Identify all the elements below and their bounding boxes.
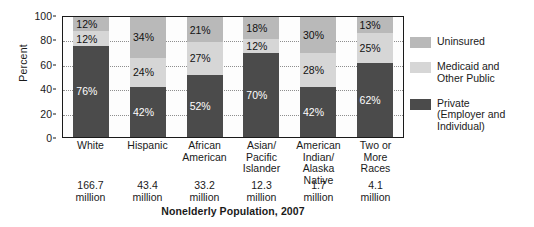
bar-segment-value-label: 70%	[246, 90, 267, 101]
bar-segment-value-label: 21%	[190, 24, 211, 35]
bar-segment[interactable]: 42%	[130, 87, 166, 137]
bar-segment[interactable]: 30%	[300, 17, 336, 53]
bar-segment-value-label: 28%	[303, 65, 324, 76]
bar-segment[interactable]: 13%	[357, 17, 393, 33]
legend-label: Private (Employer and Individual)	[437, 98, 505, 133]
bar[interactable]: 30%28%42%	[300, 17, 336, 137]
bar-segment[interactable]: 21%	[187, 17, 223, 42]
bar-segment[interactable]: 28%	[300, 53, 336, 87]
bar[interactable]: 12%12%76%	[73, 17, 109, 137]
y-tick-mark	[53, 138, 56, 139]
legend-swatch	[410, 37, 431, 48]
x-category-population-label: 4.1 million	[347, 180, 404, 203]
y-tick-label: 80	[40, 35, 52, 46]
bar-segment-value-label: 12%	[76, 19, 97, 30]
bar[interactable]: 18%12%70%	[243, 17, 279, 137]
legend-swatch	[410, 62, 431, 73]
y-tick-label: 20	[40, 108, 52, 119]
x-category-population-label: 43.4 million	[119, 180, 176, 203]
bar-segment-value-label: 52%	[190, 101, 211, 112]
bar-segment-value-label: 27%	[190, 53, 211, 64]
bar-segment-value-label: 18%	[246, 23, 267, 34]
x-axis-title: Nonelderly Population, 2007	[62, 205, 404, 217]
x-category-label: African American	[176, 140, 233, 163]
y-tick-label: 40	[40, 84, 52, 95]
bar-segment[interactable]: 52%	[187, 75, 223, 137]
bar[interactable]: 13%25%62%	[357, 17, 393, 137]
legend-swatch	[410, 99, 431, 110]
bar-segment[interactable]: 12%	[73, 17, 109, 31]
y-tick-mark	[53, 113, 56, 114]
bar-segment[interactable]: 24%	[130, 58, 166, 87]
x-category-label: Asian/ Pacific Islander	[233, 140, 290, 175]
bar-group: 12%12%76%34%24%42%21%27%52%18%12%70%30%2…	[63, 17, 403, 137]
bar-segment[interactable]: 18%	[243, 17, 279, 39]
bar-segment-value-label: 30%	[303, 30, 324, 41]
bar-segment-value-label: 25%	[360, 42, 381, 53]
bar-segment-value-label: 42%	[133, 107, 154, 118]
x-category-label: White	[62, 140, 119, 152]
bar-segment[interactable]: 12%	[243, 39, 279, 53]
x-category-population-label: 33.2 million	[176, 180, 233, 203]
legend-item[interactable]: Uninsured	[410, 36, 534, 48]
legend-label: Uninsured	[437, 36, 485, 48]
x-category-label: Two or More Races	[347, 140, 404, 175]
y-tick-mark	[53, 40, 56, 41]
y-tick-label: 100	[34, 11, 52, 22]
bar-segment-value-label: 24%	[133, 67, 154, 78]
bar-segment[interactable]: 25%	[357, 33, 393, 63]
bar-segment-value-label: 12%	[76, 33, 97, 44]
bar-segment-value-label: 76%	[76, 86, 97, 97]
legend: UninsuredMedicaid and Other PublicPrivat…	[410, 36, 534, 146]
legend-item[interactable]: Private (Employer and Individual)	[410, 98, 534, 133]
x-category-population-label: 166.7 million	[62, 180, 119, 203]
bar-segment[interactable]: 70%	[243, 53, 279, 137]
y-tick-mark	[53, 89, 56, 90]
y-axis-tick-labels: 020406080100	[22, 16, 56, 138]
stacked-bar-chart-figure: Percent 020406080100 12%12%76%34%24%42%2…	[0, 0, 534, 227]
y-tick-label: 60	[40, 60, 52, 71]
bar[interactable]: 34%24%42%	[130, 17, 166, 137]
legend-item[interactable]: Medicaid and Other Public	[410, 61, 534, 85]
bar-segment-value-label: 62%	[360, 95, 381, 106]
x-category-population-label: 12.3 million	[233, 180, 290, 203]
bar-segment[interactable]: 27%	[187, 42, 223, 74]
y-tick-mark	[53, 16, 56, 17]
bar-segment[interactable]: 76%	[73, 46, 109, 137]
x-category-label: Hispanic	[119, 140, 176, 152]
bar-segment-value-label: 13%	[360, 20, 381, 31]
legend-label: Medicaid and Other Public	[437, 61, 499, 85]
plot-area: 12%12%76%34%24%42%21%27%52%18%12%70%30%2…	[62, 16, 404, 138]
bar-segment-value-label: 34%	[133, 32, 154, 43]
bar-segment[interactable]: 62%	[357, 63, 393, 137]
bar[interactable]: 21%27%52%	[187, 17, 223, 137]
bar-segment[interactable]: 42%	[300, 87, 336, 137]
bar-segment[interactable]: 34%	[130, 17, 166, 58]
x-category-population-label: 1.7 million	[290, 180, 347, 203]
bar-segment[interactable]: 12%	[73, 31, 109, 45]
bar-segment-value-label: 42%	[303, 107, 324, 118]
y-tick-label: 0	[46, 133, 52, 144]
y-tick-mark	[53, 64, 56, 65]
bar-segment-value-label: 12%	[246, 41, 267, 52]
x-axis-population-labels: 166.7 million43.4 million33.2 million12.…	[62, 180, 404, 203]
